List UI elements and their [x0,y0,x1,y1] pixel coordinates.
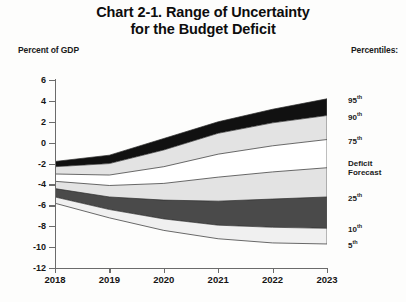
y-tick-mark [49,143,55,144]
x-tick-mark [55,268,56,273]
y-tick-label: -6 [20,200,46,210]
y-tick-label: -12 [20,263,46,273]
y-tick-mark [49,205,55,206]
chart-page: Chart 2-1. Range of Uncertainty for the … [0,0,406,302]
x-tick-mark [218,268,219,273]
legend-item-10th: 10th [348,222,362,234]
x-tick-label: 2019 [99,274,120,285]
y-tick-label: 6 [20,75,46,85]
legend-item-label: 25 [348,194,357,203]
y-tick-label: -8 [20,221,46,231]
y-tick-mark [49,164,55,165]
x-tick-label: 2020 [153,274,174,285]
legend-item-ordinal-suffix: th [357,94,362,100]
y-tick-label: -4 [20,179,46,189]
legend-item-deficit-forecast: DeficitForecast [348,158,381,177]
legend-item-5th: 5th [348,238,358,250]
legend-item-label: 95 [348,95,357,104]
y-tick-label: 0 [20,138,46,148]
y-tick-mark [49,122,55,123]
legend-item-ordinal-suffix: th [357,223,362,229]
x-tick-label: 2018 [44,274,65,285]
legend-item-label: 75 [348,136,357,145]
chart-title: Chart 2-1. Range of Uncertainty for the … [0,4,406,38]
y-tick-label: 2 [20,117,46,127]
legend-item-ordinal-suffix: th [352,239,357,245]
y-axis-line [55,79,56,269]
y-tick-mark [49,226,55,227]
legend-item-label-line2: Forecast [348,168,381,177]
legend-item-75th: 75th [348,133,362,145]
x-tick-mark [273,268,274,273]
plot-area [55,80,327,268]
area-chart-svg [55,80,327,268]
y-tick-label: -10 [20,242,46,252]
legend-item-label: 10 [348,225,357,234]
x-tick-label: 2021 [208,274,229,285]
x-tick-mark [327,268,328,273]
legend-item-ordinal-suffix: th [357,110,362,116]
legend-item-label: 90 [348,112,357,121]
chart-title-line1: Chart 2-1. Range of Uncertainty [96,4,310,20]
legend-item-90th: 90th [348,109,362,121]
y-tick-mark [49,80,55,81]
x-tick-label: 2022 [262,274,283,285]
y-tick-label: 4 [20,96,46,106]
y-axis-labels: 6420-2-4-6-8-10-12 [14,0,46,302]
y-tick-label: -2 [20,159,46,169]
legend-item-ordinal-suffix: th [357,192,362,198]
x-tick-mark [164,268,165,273]
legend-item-25th: 25th [348,191,362,203]
x-tick-label: 2023 [316,274,337,285]
legend-item-label: Deficit [348,158,372,167]
legend-item-95th: 95th [348,93,362,105]
legend-item-ordinal-suffix: th [357,134,362,140]
y-tick-mark [49,247,55,248]
x-axis-line [55,268,328,269]
legend-heading: Percentiles: [351,45,398,55]
chart-title-line2: for the Budget Deficit [0,21,406,38]
x-tick-mark [109,268,110,273]
y-tick-mark [49,101,55,102]
y-tick-mark [49,184,55,185]
